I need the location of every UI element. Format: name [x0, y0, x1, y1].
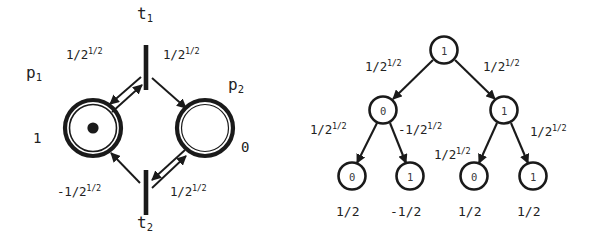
arc-weight-t2-p1-exp: 1/2: [86, 183, 100, 193]
transition-t1-label-sub: 1: [147, 12, 153, 24]
arc-weight-t2-p1: -1/21/2: [57, 184, 101, 199]
tree-weight-root-right-base: 1/2: [483, 59, 505, 74]
arc-t1-to-p2: [152, 78, 186, 108]
petri-places: [65, 100, 233, 156]
figure-canvas: [0, 0, 606, 240]
tree-weight-r-rl: 1/21/2: [434, 147, 470, 162]
tree-weight-r-rr-base: 1/2: [530, 124, 552, 139]
tree-weight-root-left-exp: 1/2: [387, 58, 401, 68]
tree-node-ll-value: 0: [349, 171, 355, 183]
arc-t2-to-p1: [111, 153, 140, 183]
tree-weight-r-rr-exp: 1/2: [552, 123, 566, 133]
tree-node-rr-value: 1: [530, 171, 536, 183]
tree-leaf-value-1: -1/2: [390, 205, 421, 218]
arc-weight-t1-p2-base: 1/2: [163, 47, 185, 62]
arc-weight-t2-p1-base: -1/2: [57, 184, 86, 199]
tree-weight-l-ll-exp: 1/2: [332, 121, 346, 131]
tree-weight-r-rr: 1/21/2: [530, 124, 566, 139]
tree-leaf-value-3: 1/2: [517, 205, 540, 218]
tree-node-r-value: 1: [501, 105, 507, 117]
place-p2-label: p2: [228, 77, 244, 95]
arc-weight-t2-p2-base: 1/2: [170, 184, 192, 199]
tree-node-rl-value: 0: [471, 171, 477, 183]
arc-p2-to-t2: [152, 150, 185, 180]
place-p2-inner: [182, 105, 229, 152]
tree-weight-l-ll-base: 1/2: [310, 122, 332, 137]
transition-t1-label: t1: [137, 6, 153, 24]
arc-weight-t1-p1: 1/21/2: [66, 47, 102, 62]
tree-weight-root-left-base: 1/2: [365, 59, 387, 74]
arc-weight-t2-p2-exp: 1/2: [192, 183, 206, 193]
tree-weight-l-lr: -1/21/2: [398, 122, 442, 137]
token-p1: [87, 122, 98, 133]
tree-edge-r-rr: [511, 123, 528, 163]
figure-root: t1 t2 p1 p2 1 0 1/21/2 1/21/2 -1/21/2 1/…: [0, 0, 606, 240]
tree-weight-root-left: 1/21/2: [365, 59, 401, 74]
arc-weight-t1-p1-base: 1/2: [66, 47, 88, 62]
arc-weight-t1-p1-exp: 1/2: [88, 46, 102, 56]
tree-leaf-value-0: 1/2: [336, 205, 359, 218]
place-p1-label: p1: [26, 65, 42, 83]
place-p2-label-sub: 2: [238, 83, 244, 95]
place-p2-marking: 0: [241, 140, 249, 154]
tree-edge-r-rl: [479, 123, 497, 163]
tree-weight-l-lr-exp: 1/2: [427, 121, 441, 131]
tree-leaf-value-2: 1/2: [458, 205, 481, 218]
tree-weight-r-rl-exp: 1/2: [456, 146, 470, 156]
place-p1-label-sub: 1: [36, 71, 42, 83]
tree-node-lr-value: 1: [407, 171, 413, 183]
transition-t2-label: t2: [137, 215, 153, 233]
arc-weight-t1-p2-exp: 1/2: [185, 46, 199, 56]
tree-weight-root-right-exp: 1/2: [505, 58, 519, 68]
arc-weight-t1-p2: 1/21/2: [163, 47, 199, 62]
arc-weight-t2-p2: 1/21/2: [170, 184, 206, 199]
tree-node-l-value: 0: [380, 105, 386, 117]
place-p1-marking: 1: [33, 131, 41, 145]
tree-weight-l-ll: 1/21/2: [310, 122, 346, 137]
tree-edge-l-ll: [357, 123, 377, 163]
tree-weight-l-lr-base: -1/2: [398, 122, 427, 137]
transition-t2-label-sub: 2: [147, 221, 153, 233]
tree-weight-r-rl-base: 1/2: [434, 147, 456, 162]
tree-weight-root-right: 1/21/2: [483, 59, 519, 74]
tree-node-root-value: 1: [441, 45, 447, 57]
